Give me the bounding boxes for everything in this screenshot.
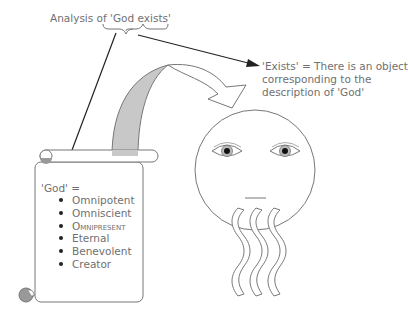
scroll-heading: 'God' = xyxy=(41,182,80,194)
exists-definition-line3: description of 'God' xyxy=(262,86,364,98)
curved-arrow-white xyxy=(168,64,246,108)
attribute-omniscient: Omniscient xyxy=(44,207,135,220)
exists-definition-line1: 'Exists' = There is an object xyxy=(262,60,408,72)
attribute-eternal: Eternal xyxy=(44,232,135,245)
attribute-benevolent: Benevolent xyxy=(44,245,135,258)
curved-arrow-gray xyxy=(112,65,168,156)
brace-exists xyxy=(126,24,168,31)
arrow-line-exists xyxy=(138,35,252,64)
exists-definition-line2: corresponding to the xyxy=(262,73,371,85)
diagram-title: Analysis of 'God exists' xyxy=(50,12,171,24)
arrowhead-exists xyxy=(246,59,260,67)
attribute-list: Omnipotent Omniscient Omnipresent Eterna… xyxy=(44,194,135,271)
attribute-omnipresent: Omnipresent xyxy=(44,220,135,233)
attribute-creator: Creator xyxy=(44,258,135,271)
attribute-omnipotent: Omnipotent xyxy=(44,194,135,207)
